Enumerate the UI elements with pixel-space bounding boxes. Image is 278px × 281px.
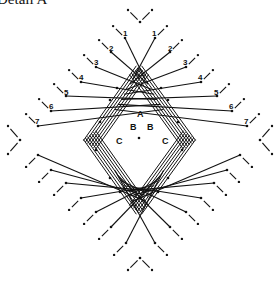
upper-left-tick xyxy=(42,102,48,108)
lower-right-tick xyxy=(230,173,236,179)
bottom-outer-marker-dot xyxy=(127,269,129,271)
lower-right-tick xyxy=(189,215,195,221)
lower-left-end-dot xyxy=(53,194,55,196)
upper-right-end-dot xyxy=(212,69,214,71)
strand-number-7: 7 xyxy=(244,117,249,126)
region-label-c: C xyxy=(162,136,169,146)
inner-dot xyxy=(116,87,119,90)
lower-left-anchor-dot xyxy=(50,169,53,172)
upper-left-tick xyxy=(57,87,63,93)
inner-dot xyxy=(109,177,112,180)
strand-number-5: 5 xyxy=(64,88,69,97)
strand-number-4: 4 xyxy=(198,73,203,82)
upper-left-strand xyxy=(38,110,164,127)
lower-right-end-dot xyxy=(166,254,168,256)
lower-left-tick xyxy=(29,158,35,164)
bottom-right-edge-band-line xyxy=(133,134,187,209)
strand-number-2: 2 xyxy=(168,44,173,53)
lower-right-anchor-dot xyxy=(185,211,188,214)
upper-right-tick xyxy=(189,58,195,64)
strand-number-4: 4 xyxy=(79,73,84,82)
lower-right-end-dot xyxy=(197,223,199,225)
upper-left-tick xyxy=(102,43,108,49)
upper-right-end-dot xyxy=(166,25,168,27)
lower-right-strand xyxy=(118,176,170,227)
upper-left-tick xyxy=(116,29,122,35)
lower-right-anchor-dot xyxy=(154,242,157,245)
lower-right-tick xyxy=(173,230,179,236)
strand-number-6: 6 xyxy=(229,102,234,111)
lower-left-anchor-dot xyxy=(110,226,113,229)
upper-right-tick xyxy=(158,29,164,35)
left-outer-marker-dot xyxy=(7,153,9,155)
upper-left-end-dot xyxy=(83,54,85,56)
lower-left-tick xyxy=(102,230,108,236)
inner-dot xyxy=(109,99,112,102)
lower-right-end-dot xyxy=(181,238,183,240)
diamond-grid xyxy=(83,66,195,215)
upper-right-end-dot xyxy=(197,54,199,56)
top-outer-marker-center xyxy=(139,21,142,24)
upper-left-end-dot xyxy=(68,69,70,71)
upper-right-end-dot xyxy=(243,98,245,100)
left-outer-marker-line xyxy=(10,129,17,137)
upper-left-tick xyxy=(72,73,78,79)
strand-number-5: 5 xyxy=(214,88,219,97)
lower-left-anchor-dot xyxy=(65,182,68,185)
upper-left-end-dot xyxy=(98,39,100,41)
lower-left-end-dot xyxy=(98,238,100,240)
lower-left-end-dot xyxy=(113,254,115,256)
lower-left-tick xyxy=(117,246,123,252)
inner-dot xyxy=(167,177,170,180)
lower-left-anchor-dot xyxy=(95,211,98,214)
upper-right-strand xyxy=(118,104,232,111)
lower-right-anchor-dot xyxy=(200,197,203,200)
inner-dot xyxy=(181,149,184,152)
lower-left-tick xyxy=(42,173,48,179)
lower-left-end-dot xyxy=(68,209,70,211)
strand-number-3: 3 xyxy=(183,58,188,67)
strand-number-2: 2 xyxy=(109,44,114,53)
lower-left-tick xyxy=(57,186,63,192)
lower-right-tick xyxy=(158,246,164,252)
lower-left-anchor-dot xyxy=(80,197,83,200)
lower-right-tick xyxy=(204,201,210,207)
upper-left-end-dot xyxy=(38,98,40,100)
bottom-right-edge-band-line xyxy=(140,138,194,213)
upper-right-end-dot xyxy=(258,113,260,115)
top-outer-marker-line xyxy=(130,12,137,19)
top-left-edge-band-line xyxy=(90,70,143,145)
right-outer-marker-dot xyxy=(271,125,273,127)
tick-marks xyxy=(10,12,269,267)
lower-right-end-dot xyxy=(238,181,240,183)
inner-dot xyxy=(160,87,163,90)
inner-dot xyxy=(167,99,170,102)
braid-diagram: 12345671234567 ABBCC xyxy=(0,0,278,281)
bottom-outer-marker-center xyxy=(139,257,142,260)
lower-right-anchor-dot xyxy=(239,154,242,157)
bottom-outer-marker-dot xyxy=(151,269,153,271)
upper-right-tick xyxy=(173,43,179,49)
left-outer-marker-dot xyxy=(7,125,9,127)
upper-right-tick xyxy=(204,73,210,79)
strand-number-7: 7 xyxy=(35,117,40,126)
lower-left-tick xyxy=(87,215,93,221)
anchor-dots xyxy=(7,9,273,271)
top-outer-marker-dot xyxy=(151,9,153,11)
upper-right-end-dot xyxy=(181,39,183,41)
inner-dot xyxy=(119,191,122,194)
top-outer-marker-dot xyxy=(127,9,129,11)
bottom-right-edge-band-line xyxy=(138,137,192,212)
inner-dot xyxy=(177,121,180,124)
upper-right-end-dot xyxy=(228,83,230,85)
lower-right-end-dot xyxy=(225,194,227,196)
upper-right-tick xyxy=(220,87,226,93)
region-label-b: B xyxy=(130,122,137,132)
lower-right-anchor-dot xyxy=(169,226,172,229)
bottom-outer-marker-line xyxy=(130,260,137,267)
lower-left-end-dot xyxy=(83,223,85,225)
lower-left-anchor-dot xyxy=(125,242,128,245)
inner-dot xyxy=(138,137,141,140)
strand-number-3: 3 xyxy=(94,58,99,67)
upper-right-tick xyxy=(250,117,256,123)
